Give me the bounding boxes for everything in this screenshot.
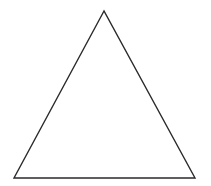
diagram-canvas [0,0,211,186]
triangle-shape [14,11,195,178]
triangle-diagram [0,0,211,186]
